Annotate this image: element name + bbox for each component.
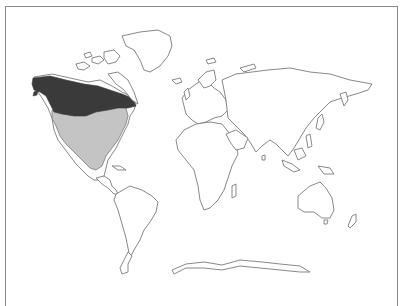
new-guinea — [318, 166, 334, 174]
tasmania — [324, 220, 328, 224]
south-america — [114, 186, 158, 258]
sri-lanka — [262, 155, 265, 160]
madagascar — [232, 184, 236, 198]
svalbard — [206, 58, 216, 64]
new-zealand — [348, 214, 356, 228]
arctic-island — [92, 56, 104, 64]
australia — [298, 182, 334, 218]
cuba — [112, 166, 126, 170]
antarctic-peninsula — [120, 252, 132, 274]
arctic-island — [84, 52, 92, 58]
antarctica — [172, 260, 310, 274]
philippines — [306, 134, 312, 148]
novaya-zemlya — [240, 64, 256, 72]
range-southern — [52, 106, 128, 170]
greenland — [122, 30, 172, 72]
borneo — [294, 148, 306, 160]
arctic-island — [104, 50, 120, 64]
central-america — [96, 176, 118, 194]
indonesia — [282, 160, 300, 172]
arctic-islands — [76, 62, 90, 70]
iceland — [172, 78, 182, 84]
japan — [316, 114, 324, 130]
range-aleutian-tip — [33, 90, 38, 96]
kamchatka — [340, 92, 348, 106]
